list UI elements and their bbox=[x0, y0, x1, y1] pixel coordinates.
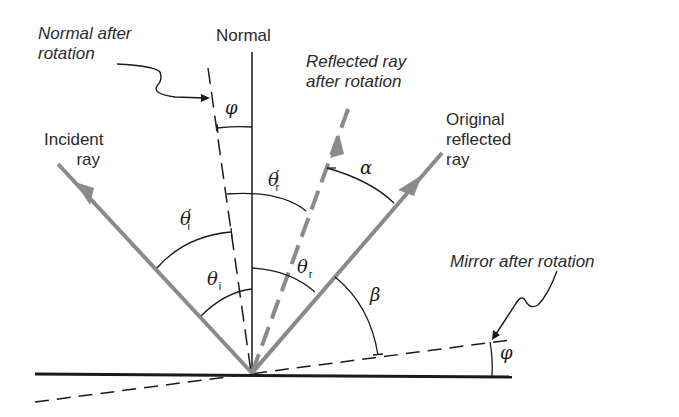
original-reflected-line3: ray bbox=[446, 150, 511, 170]
alpha-label: α bbox=[360, 158, 372, 178]
reflected-after-rotation-label: Reflected ray after rotation bbox=[306, 52, 406, 92]
subscript: r bbox=[275, 181, 279, 193]
normal-after-rotation-line2: rotation bbox=[38, 44, 132, 64]
original-reflected-line2: reflected bbox=[446, 130, 511, 150]
mirror-after-rotation-leader bbox=[494, 271, 557, 337]
mirror-line bbox=[35, 374, 512, 377]
theta-i-prime-arc bbox=[157, 232, 231, 268]
incident-line2: ray bbox=[44, 150, 100, 170]
subscript: i bbox=[219, 280, 221, 292]
theta-i-arc bbox=[201, 289, 252, 316]
original-reflected-ray-arrow-icon bbox=[398, 175, 422, 196]
theta-r-prime-label: θ′r bbox=[268, 170, 286, 192]
subscript: r bbox=[309, 268, 313, 280]
mirror-after-rotation-label: Mirror after rotation bbox=[450, 252, 595, 272]
normal-after-rotation-line1: Normal after bbox=[38, 24, 132, 44]
theta-symbol: θ bbox=[297, 256, 308, 277]
theta-i-label: θi bbox=[207, 269, 220, 291]
normal-label: Normal bbox=[216, 26, 271, 46]
normal-after-rotation-leader bbox=[117, 64, 205, 98]
normal-after-rotation-arrow-icon bbox=[201, 94, 210, 102]
reflection-rotation-diagram: Normal after rotation Normal Reflected r… bbox=[0, 0, 679, 417]
phi-bottom-label: φ bbox=[500, 343, 513, 363]
original-reflected-ray-label: Original reflected ray bbox=[446, 110, 511, 170]
theta-r-prime-arc bbox=[227, 193, 306, 211]
normal-after-rotation-label: Normal after rotation bbox=[38, 24, 132, 64]
phi-bottom-arc bbox=[490, 342, 492, 376]
phi-top-label: φ bbox=[225, 98, 238, 118]
theta-r-label: θr bbox=[297, 257, 312, 279]
mirror-after-rotation-arrow-icon bbox=[492, 330, 500, 340]
original-reflected-line1: Original bbox=[446, 110, 511, 130]
phi-top-arc bbox=[217, 127, 252, 128]
subscript: i bbox=[187, 220, 189, 232]
theta-symbol: θ bbox=[207, 268, 218, 289]
theta-i-prime-label: θ′i bbox=[180, 209, 197, 231]
reflected-after-rotation-line2: after rotation bbox=[306, 72, 406, 92]
incident-line1: Incident bbox=[44, 130, 100, 150]
incident-ray-label: Incident ray bbox=[44, 130, 100, 170]
reflected-after-rotation-line1: Reflected ray bbox=[306, 52, 406, 72]
beta-label: β bbox=[370, 285, 380, 305]
